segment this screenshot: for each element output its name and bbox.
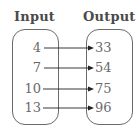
arrow-icon xyxy=(44,66,94,71)
arrow-icon xyxy=(43,106,94,111)
mapping-arrows xyxy=(0,0,139,133)
arrow-icon xyxy=(44,46,94,51)
arrow-icon xyxy=(43,87,94,92)
